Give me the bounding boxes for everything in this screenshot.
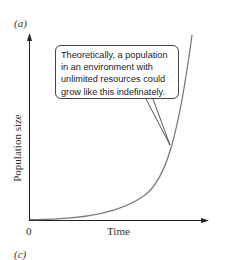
annotation-callout: Theoretically, a population in an enviro…	[55, 45, 179, 99]
y-axis-label: Population size	[11, 108, 23, 188]
callout-line: unlimited resources could	[61, 73, 175, 85]
x-axis-label: Time	[107, 225, 130, 237]
callout-line: grow like this indefinately.	[61, 86, 175, 98]
x-tick-zero: 0	[26, 225, 32, 237]
panel-label-c: (c)	[14, 248, 26, 260]
y-axis-arrow-icon	[27, 33, 32, 41]
callout-tail	[146, 99, 170, 145]
callout-line: Theoretically, a population	[61, 49, 175, 61]
callout-line: in an environment with	[61, 61, 175, 73]
x-axis-arrow-icon	[201, 218, 209, 223]
